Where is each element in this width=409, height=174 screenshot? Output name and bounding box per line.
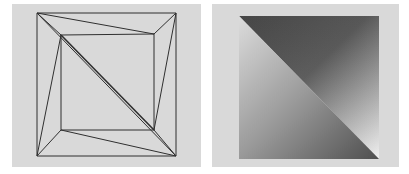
wireframe-mesh (37, 13, 176, 156)
figure-canvas (0, 0, 409, 174)
shaded-square (239, 16, 379, 159)
